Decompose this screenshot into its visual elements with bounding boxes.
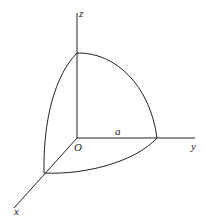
- octant-diagram: z a O y x: [0, 0, 207, 222]
- radius-label: a: [115, 125, 121, 137]
- origin-label: O: [74, 141, 82, 153]
- z-axis-label: z: [78, 7, 84, 19]
- arc-xz: [44, 53, 77, 173]
- x-axis-label: x: [13, 205, 19, 217]
- y-axis-label: y: [190, 140, 196, 152]
